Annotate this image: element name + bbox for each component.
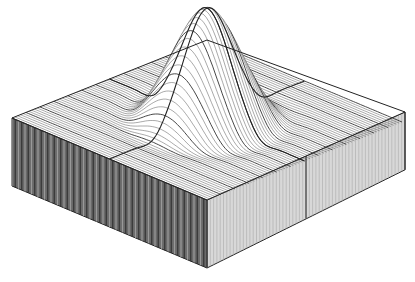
surface-plot: [0, 0, 415, 282]
